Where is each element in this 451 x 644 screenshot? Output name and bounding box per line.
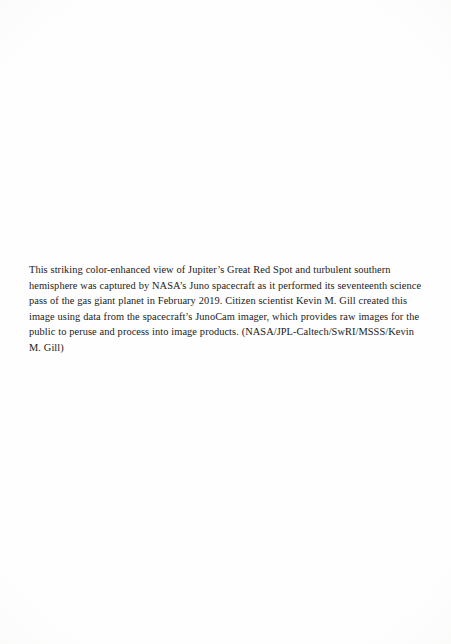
caption-paragraph: This striking color-enhanced view of Jup… bbox=[29, 262, 425, 356]
book-page: This striking color-enhanced view of Jup… bbox=[0, 0, 451, 644]
image-caption-block: This striking color-enhanced view of Jup… bbox=[29, 262, 425, 356]
